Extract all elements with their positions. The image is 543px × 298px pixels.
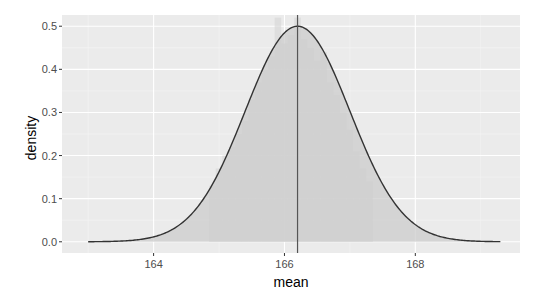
y-axis: 0.00.10.20.30.40.5 — [42, 20, 62, 248]
x-tick-label: 166 — [275, 258, 293, 270]
y-tick-label: 0.0 — [42, 236, 57, 248]
y-tick-label: 0.5 — [42, 20, 57, 32]
y-tick-label: 0.2 — [42, 150, 57, 162]
y-axis-title: density — [23, 116, 39, 160]
x-tick-label: 164 — [144, 258, 162, 270]
x-axis-title: mean — [273, 274, 308, 290]
y-tick-label: 0.1 — [42, 193, 57, 205]
x-tick-label: 168 — [406, 258, 424, 270]
y-tick-label: 0.4 — [42, 63, 57, 75]
density-chart: 0.00.10.20.30.40.5 164166168 mean densit… — [0, 0, 543, 298]
y-tick-label: 0.3 — [42, 106, 57, 118]
x-axis: 164166168 — [144, 253, 424, 270]
